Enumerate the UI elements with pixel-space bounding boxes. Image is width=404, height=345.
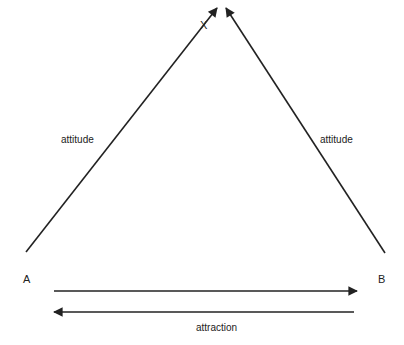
edge-b-x-label: attitude	[320, 134, 353, 145]
node-x-label: X	[200, 19, 207, 31]
node-a-label: A	[23, 273, 30, 285]
node-b-label: B	[378, 273, 385, 285]
edge-a-b-label: attraction	[196, 322, 237, 333]
edge-a-to-x-arrow	[26, 8, 217, 252]
diagram-canvas	[0, 0, 404, 345]
edge-b-to-x-arrow	[226, 8, 385, 253]
edge-a-x-label: attitude	[61, 134, 94, 145]
